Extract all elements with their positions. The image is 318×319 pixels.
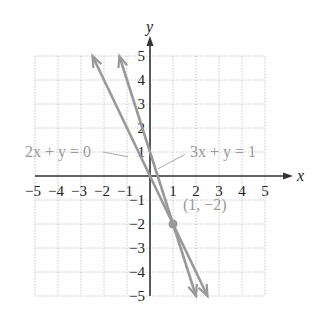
y-axis-label: y bbox=[144, 18, 154, 36]
tick-labels: −5−4−3−2−11234554321−1−2−3−4−5xy bbox=[25, 18, 304, 304]
y-tick-label: −4 bbox=[129, 264, 145, 280]
graph-figure: −5−4−3−2−11234554321−1−2−3−4−5xy (1, −2)… bbox=[0, 0, 318, 319]
x-axis-arrow-icon bbox=[283, 173, 293, 180]
y-axis-arrow-icon bbox=[147, 36, 154, 46]
y-tick-label: −1 bbox=[129, 192, 145, 208]
eq1-leader bbox=[103, 152, 128, 157]
x-tick-label: 1 bbox=[169, 183, 177, 199]
eq2-leader bbox=[158, 154, 185, 168]
x-axis-label: x bbox=[296, 167, 304, 184]
y-tick-label: −3 bbox=[129, 240, 145, 256]
x-tick-label: −2 bbox=[94, 183, 110, 199]
y-tick-label: 3 bbox=[138, 96, 146, 112]
intersection-label: (1, −2) bbox=[183, 196, 227, 214]
x-tick-label: −5 bbox=[25, 183, 41, 199]
y-tick-label: 5 bbox=[138, 48, 146, 64]
y-tick-label: −2 bbox=[129, 216, 145, 232]
x-tick-label: −3 bbox=[71, 183, 87, 199]
intersection-point bbox=[169, 220, 178, 229]
x-tick-label: 4 bbox=[238, 183, 246, 199]
eq1-label: 2x + y = 0 bbox=[25, 143, 91, 161]
coordinate-plane: −5−4−3−2−11234554321−1−2−3−4−5xy (1, −2)… bbox=[0, 0, 318, 319]
y-tick-label: 4 bbox=[138, 72, 146, 88]
x-tick-label: −4 bbox=[48, 183, 64, 199]
x-tick-label: 5 bbox=[261, 183, 269, 199]
y-tick-label: −5 bbox=[129, 288, 145, 304]
eq2-label: 3x + y = 1 bbox=[190, 143, 256, 161]
